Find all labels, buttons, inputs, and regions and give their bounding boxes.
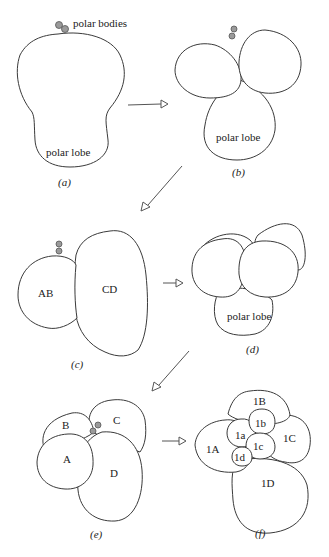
arrow-head (179, 437, 186, 445)
label-1d: 1d (234, 451, 246, 463)
caption-d: (d) (246, 343, 259, 356)
caption-a: (a) (58, 176, 71, 189)
polar-body (95, 422, 101, 428)
blastomere-left (175, 44, 241, 98)
polar-body (62, 26, 69, 33)
label-b: B (62, 419, 69, 431)
ab-label: AB (38, 287, 53, 299)
polar-lobe-label: polar lobe (46, 146, 90, 158)
polar-body (231, 26, 237, 32)
label-1A: 1A (206, 443, 220, 455)
cleavage-diagram: polar bodies polar lobe (a) polar lobe (… (0, 0, 329, 557)
arrow-b-to-c (141, 166, 182, 211)
polar-lobe-label: polar lobe (227, 310, 271, 322)
panel-e: B C A D (e) (37, 400, 146, 541)
arrow-a-to-b (128, 100, 168, 108)
caption-c: (c) (71, 358, 84, 371)
label-1a: 1a (235, 429, 246, 441)
label-1D: 1D (261, 477, 275, 489)
label-1B: 1B (253, 395, 266, 407)
blastomere-front-right (239, 241, 298, 297)
arrow-c-to-d (163, 279, 183, 287)
arrow-head (141, 202, 150, 211)
panel-a: polar bodies polar lobe (a) (17, 17, 127, 189)
arrow-head (152, 382, 161, 391)
panel-b: polar lobe (b) (175, 26, 301, 179)
label-a: A (63, 453, 71, 465)
polar-body (90, 428, 96, 434)
label-1b: 1b (255, 417, 267, 429)
polar-body (56, 241, 62, 247)
blastomere-right (239, 30, 301, 93)
blastomere-front-left (192, 239, 246, 298)
arrow-head (161, 100, 168, 108)
arrow-head (176, 279, 183, 287)
label-d: D (110, 467, 118, 479)
panel-c: AB CD (c) (18, 231, 147, 371)
arrow-d-to-e (152, 351, 189, 391)
cell-1D (232, 458, 308, 533)
panel-d: polar lobe (d) (192, 224, 305, 356)
panel-f: 1B 1b 1a 1C 1c 1A 1d 1D (f) (195, 390, 310, 540)
label-1C: 1C (283, 432, 296, 444)
polar-body (229, 33, 235, 39)
cd-label: CD (102, 283, 117, 295)
caption-e: (e) (90, 528, 103, 541)
caption-b: (b) (232, 166, 245, 179)
label-c: C (113, 414, 120, 426)
arrow-e-to-f (162, 437, 186, 445)
polar-bodies-label: polar bodies (73, 17, 127, 29)
polar-body (56, 248, 62, 254)
polar-lobe-label: polar lobe (216, 131, 260, 143)
caption-f: (f) (255, 527, 266, 540)
label-1c: 1c (253, 440, 264, 452)
